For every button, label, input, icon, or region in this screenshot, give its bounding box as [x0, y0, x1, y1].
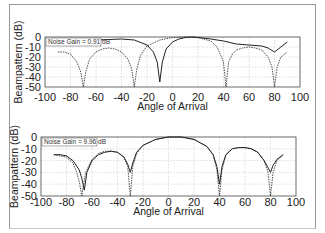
y-axis-label: Beampattern (dB)	[8, 125, 20, 208]
y-axis-label: Beampattern (dB)	[12, 21, 24, 104]
x-tick-label: -60	[88, 91, 104, 103]
noise-gain-label: Noise Gain = 0.91 dB	[48, 38, 110, 45]
x-tick-label: -40	[114, 91, 130, 103]
top-beampattern-plot: -100-80-60-40-200204060801000-10-20-30-4…	[12, 21, 309, 112]
x-tick-label: -80	[63, 91, 79, 103]
x-tick-label: 40	[217, 91, 229, 103]
y-tick-label: -20	[21, 155, 37, 167]
x-tick-label: -80	[59, 196, 75, 208]
x-axis-label: Angle of Arrival	[137, 100, 208, 112]
y-tick-label: -50	[21, 190, 37, 202]
y-tick-label: -40	[21, 178, 37, 190]
x-tick-label: 60	[243, 91, 255, 103]
beampattern-figure: -100-80-60-40-200204060801000-10-20-30-4…	[0, 0, 325, 233]
x-tick-label: -40	[110, 196, 126, 208]
x-axis-label: Angle of Arrival	[133, 205, 204, 217]
x-tick-label: 80	[268, 91, 280, 103]
y-tick-label: -50	[25, 81, 41, 93]
x-tick-label: 80	[264, 196, 276, 208]
bottom-beampattern-plot: -100-80-60-40-200204060801000-10-20-30-4…	[8, 125, 305, 217]
x-tick-label: 60	[239, 196, 251, 208]
y-tick-label: 0	[31, 131, 37, 143]
y-tick-label: -10	[21, 143, 37, 155]
x-tick-label: 100	[287, 196, 305, 208]
y-tick-label: -30	[21, 166, 37, 178]
noise-gain-label: Noise Gain = 9.96 dB	[44, 138, 106, 145]
x-tick-label: 100	[291, 91, 309, 103]
x-tick-label: 40	[213, 196, 225, 208]
x-tick-label: -60	[84, 196, 100, 208]
